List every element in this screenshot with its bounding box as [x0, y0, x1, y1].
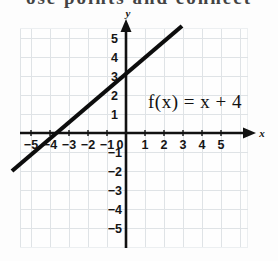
y-tick-label: −4 [108, 203, 122, 217]
x-tick-label: −4 [43, 138, 57, 152]
equation-label: f(x) = x + 4 [148, 91, 242, 113]
y-tick-label: 5 [111, 32, 118, 46]
x-tick-label: 2 [161, 138, 168, 152]
coordinate-plane-svg: −5 −4 −3 −2 −1 0 1 2 3 4 5 5 4 3 2 1 −1 … [0, 0, 278, 261]
graph-figure: ose points and connect [0, 0, 278, 261]
x-axis-label: x [258, 127, 265, 139]
y-tick-label: 3 [111, 70, 118, 84]
y-axis-label: y [124, 7, 131, 19]
x-tick-label: −2 [81, 138, 95, 152]
coordinate-plane: −5 −4 −3 −2 −1 0 1 2 3 4 5 5 4 3 2 1 −1 … [0, 0, 278, 261]
y-tick-label: −2 [108, 165, 122, 179]
x-tick-label: 1 [142, 138, 149, 152]
y-tick-label: 4 [111, 51, 118, 65]
x-tick-label: 4 [199, 138, 206, 152]
x-tick-label: 5 [218, 138, 225, 152]
x-tick-label: −3 [62, 138, 76, 152]
y-axis-arrowhead [121, 19, 132, 32]
y-tick-label: −1 [108, 146, 122, 160]
y-tick-label: −3 [108, 184, 122, 198]
y-tick-label: 2 [111, 89, 118, 103]
y-tick-label: 1 [111, 108, 118, 122]
x-axis-arrowhead [243, 128, 256, 139]
y-tick-label: −5 [108, 222, 122, 236]
x-tick-label: −5 [24, 138, 38, 152]
x-tick-label: 3 [180, 138, 187, 152]
